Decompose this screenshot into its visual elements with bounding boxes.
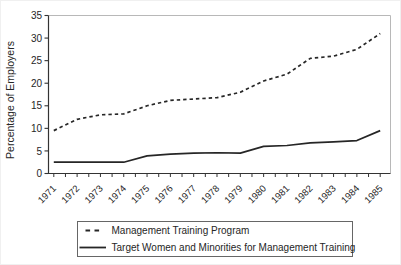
x-year-label-1976: 1976: [152, 183, 175, 206]
x-year-label-1972: 1972: [59, 183, 82, 206]
x-year-label-1982: 1982: [292, 183, 315, 206]
y-tick-label-0: 0: [36, 168, 42, 179]
x-year-label-1975: 1975: [129, 183, 152, 206]
management-training-program-line: [54, 34, 380, 131]
x-year-label-1985: 1985: [362, 183, 385, 206]
y-tick-label-25: 25: [31, 55, 43, 66]
y-tick-label-30: 30: [31, 33, 43, 44]
legend-label-management-training: Management Training Program: [112, 225, 250, 236]
y-tick-label-15: 15: [31, 100, 43, 111]
x-year-label-1984: 1984: [339, 183, 362, 206]
y-tick-label-35: 35: [31, 10, 43, 21]
x-year-label-1978: 1978: [199, 183, 222, 206]
y-tick-label-20: 20: [31, 78, 43, 89]
x-year-label-1980: 1980: [245, 183, 268, 206]
x-year-label-1981: 1981: [269, 183, 292, 206]
y-axis-title: Percentage of Employers: [4, 41, 16, 159]
x-year-label-1979: 1979: [222, 183, 245, 206]
x-year-label-1977: 1977: [175, 183, 198, 206]
x-year-label-1974: 1974: [105, 183, 128, 206]
x-year-label-1971: 1971: [35, 183, 58, 206]
target-women-minorities-line: [54, 131, 380, 163]
chart-svg: 0510152025303519711972197319741975197619…: [0, 0, 401, 265]
y-tick-label-5: 5: [36, 146, 42, 157]
legend-label-target-women: Target Women and Minorities for Manageme…: [112, 242, 356, 253]
line-chart-figure: 0510152025303519711972197319741975197619…: [0, 0, 401, 265]
y-tick-label-10: 10: [31, 123, 43, 134]
x-year-label-1983: 1983: [315, 183, 338, 206]
x-year-label-1973: 1973: [82, 183, 105, 206]
